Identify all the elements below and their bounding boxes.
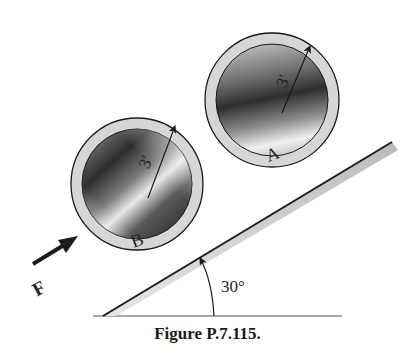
force-label: F (28, 276, 49, 300)
force-arrow (33, 236, 78, 264)
angle-label: 30° (221, 277, 245, 296)
cylinder-a: 3′ A (205, 33, 339, 167)
figure-diagram: 30° 3′ B 3′ A F (0, 0, 415, 354)
angle-arc (200, 258, 214, 316)
figure-caption: Figure P.7.115. (0, 324, 415, 344)
cylinder-b: 3′ B (71, 118, 203, 252)
